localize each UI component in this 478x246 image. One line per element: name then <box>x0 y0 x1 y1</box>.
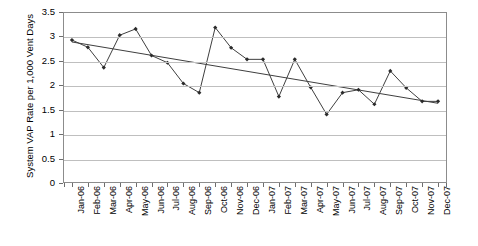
x-tick-label: Jul-06 <box>171 186 181 242</box>
x-tick-label: Mar-06 <box>108 186 118 242</box>
x-tick-label: Sep-07 <box>394 186 404 242</box>
gridline <box>64 160 446 161</box>
gridline <box>64 135 446 136</box>
data-point-marker <box>277 94 281 98</box>
gridline <box>64 62 446 63</box>
series-line <box>72 27 438 114</box>
x-tick-label: Oct-06 <box>219 186 229 242</box>
x-tick-label: Dec-06 <box>251 186 261 242</box>
data-point-marker <box>149 53 153 57</box>
x-axis-tick-labels: Jan-06Feb-06Mar-06Apr-06May-06Jun-06Jul-… <box>63 183 447 246</box>
x-tick-label: Feb-07 <box>283 186 293 242</box>
x-tick-label: Jun-07 <box>347 186 357 242</box>
x-tick-label: Sep-06 <box>203 186 213 242</box>
x-tick-label: Jun-06 <box>156 186 166 242</box>
x-tick-label: Aug-06 <box>187 186 197 242</box>
x-tick-label: Aug-07 <box>378 186 388 242</box>
data-point-marker <box>70 38 74 42</box>
x-tick-label: Nov-07 <box>426 186 436 242</box>
x-tick-label: Mar-07 <box>299 186 309 242</box>
gridline <box>64 37 446 38</box>
y-axis-ticks <box>0 0 63 246</box>
gridline <box>64 86 446 87</box>
plot-area <box>63 12 447 183</box>
trend-line <box>72 42 438 103</box>
gridline <box>64 111 446 112</box>
x-tick-label: Jan-07 <box>267 186 277 242</box>
data-point-marker <box>261 57 265 61</box>
data-point-marker <box>197 91 201 95</box>
x-tick-label: Apr-06 <box>124 186 134 242</box>
x-tick-label: Dec-07 <box>442 186 452 242</box>
x-tick-label: Oct-07 <box>410 186 420 242</box>
x-tick-label: May-07 <box>331 186 341 242</box>
x-tick-label: May-06 <box>140 186 150 242</box>
x-tick-label: Apr-07 <box>315 186 325 242</box>
x-tick-label: Jan-06 <box>76 186 86 242</box>
vap-rate-line-chart: System VAP Rate per 1,000 Vent Days 3.5 … <box>0 0 478 246</box>
x-tick-label: Feb-06 <box>92 186 102 242</box>
x-tick-label: Jul-07 <box>362 186 372 242</box>
series-markers <box>70 25 440 116</box>
data-point-marker <box>293 57 297 61</box>
x-tick-label: Nov-06 <box>235 186 245 242</box>
